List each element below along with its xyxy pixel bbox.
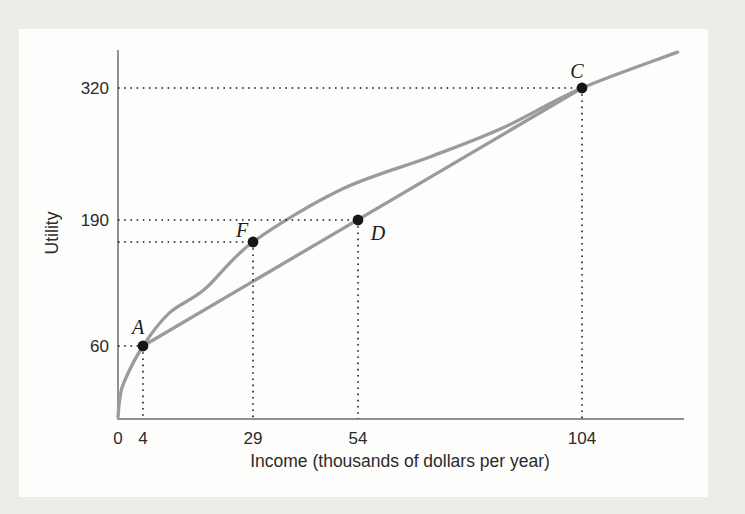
- point-A: [138, 341, 149, 352]
- x-tick-label-104: 104: [568, 429, 596, 448]
- x-tick-label-0: 0: [113, 429, 122, 448]
- guide-lines-D: [118, 220, 358, 419]
- chord-line-AC: [143, 88, 582, 346]
- x-axis-title: Income (thousands of dollars per year): [250, 451, 550, 471]
- point-label-D: D: [370, 222, 386, 244]
- y-tick-label-190: 190: [81, 211, 109, 230]
- x-tick-label-4: 4: [138, 429, 147, 448]
- guide-lines-A: [118, 346, 143, 419]
- point-F: [248, 237, 259, 248]
- y-tick-label-60: 60: [90, 337, 109, 356]
- point-D: [353, 215, 364, 226]
- guide-lines-C: [118, 88, 582, 419]
- utility-income-chart: AFDC04295410460190320 Utility Income (th…: [0, 0, 745, 514]
- point-label-A: A: [130, 316, 145, 338]
- point-label-F: F: [235, 219, 249, 241]
- point-label-C: C: [570, 60, 584, 82]
- chart-layers: AFDC04295410460190320: [81, 50, 684, 448]
- x-tick-label-29: 29: [244, 429, 263, 448]
- axes: [118, 50, 684, 419]
- y-axis-title: Utility: [42, 211, 62, 254]
- x-tick-label-54: 54: [349, 429, 368, 448]
- utility-curve: [118, 52, 678, 417]
- point-C: [577, 83, 588, 94]
- y-tick-label-320: 320: [81, 79, 109, 98]
